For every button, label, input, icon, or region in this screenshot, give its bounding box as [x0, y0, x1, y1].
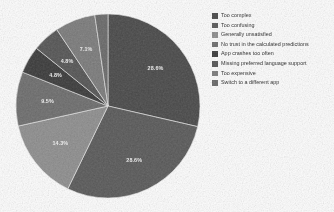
legend-item[interactable]: No trust in the calculated predictions	[211, 40, 331, 50]
pie-svg: 28.6%28.6%14.3%9.5%4.8%4.8%7.1%	[8, 8, 208, 204]
legend-swatch-icon	[212, 23, 218, 29]
pie-slice-value-label: 14.3%	[52, 140, 68, 146]
pie-slice-value-label: 4.8%	[49, 72, 62, 78]
legend-item-label: Generally unsatisfied	[221, 30, 272, 40]
legend-swatch-icon	[212, 71, 218, 77]
legend-item[interactable]: Missing preferred language support	[211, 59, 331, 69]
pie-slice-value-label: 7.1%	[80, 46, 93, 52]
legend-swatch-icon	[212, 13, 218, 19]
legend-item[interactable]: App crashes too often	[211, 49, 331, 59]
legend-swatch-icon	[212, 61, 218, 67]
pie-slice-group	[16, 14, 200, 198]
legend-item-label: Too complex	[221, 11, 251, 21]
legend-item-label: Too expensive	[221, 69, 256, 79]
pie-slice-value-label: 9.5%	[41, 98, 54, 104]
legend-item[interactable]: Generally unsatisfied	[211, 30, 331, 40]
legend-item[interactable]: Too expensive	[211, 69, 331, 79]
pie-slice-value-label: 4.8%	[61, 58, 74, 64]
pie-slice-value-label: 28.6%	[148, 65, 164, 71]
pie-chart-figure: 28.6%28.6%14.3%9.5%4.8%4.8%7.1% Too comp…	[0, 0, 334, 212]
pie-plot-area: 28.6%28.6%14.3%9.5%4.8%4.8%7.1%	[8, 8, 208, 204]
legend-swatch-icon	[212, 32, 218, 38]
legend-item-label: App crashes too often	[221, 49, 274, 59]
legend-swatch-icon	[212, 51, 218, 57]
legend-item-label: Too confusing	[221, 21, 255, 31]
legend-item-label: No trust in the calculated predictions	[221, 40, 309, 50]
chart-legend: Too complexToo confusingGenerally unsati…	[211, 11, 331, 88]
legend-swatch-icon	[212, 80, 218, 86]
legend-swatch-icon	[212, 42, 218, 48]
pie-slice-value-label: 28.6%	[126, 157, 142, 163]
legend-item[interactable]: Switch to a different app	[211, 78, 331, 88]
legend-item-label: Missing preferred language support	[221, 59, 306, 69]
legend-item-label: Switch to a different app	[221, 78, 279, 88]
legend-item[interactable]: Too confusing	[211, 21, 331, 31]
legend-item[interactable]: Too complex	[211, 11, 331, 21]
